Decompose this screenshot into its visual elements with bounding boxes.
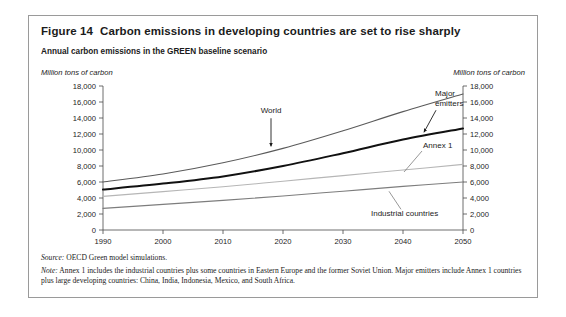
svg-text:6,000: 6,000 <box>470 178 489 187</box>
y-axis-right: 02,0004,0006,0008,00010,00012,00014,0001… <box>463 82 493 235</box>
svg-text:Industrial countries: Industrial countries <box>371 209 438 218</box>
svg-text:10,000: 10,000 <box>470 146 493 155</box>
svg-text:2050: 2050 <box>455 237 472 246</box>
x-axis: 1990200020102020203020402050 <box>95 230 472 246</box>
figure-title: Figure 14Carbon emissions in developing … <box>41 25 460 37</box>
y-axis-left: 02,0004,0006,0008,00010,00012,00014,0001… <box>73 82 103 235</box>
svg-text:1990: 1990 <box>95 237 112 246</box>
y-axis-unit-left: Million tons of carbon <box>41 68 113 77</box>
svg-text:12,000: 12,000 <box>73 130 96 139</box>
svg-text:16,000: 16,000 <box>73 98 96 107</box>
svg-text:2,000: 2,000 <box>77 210 96 219</box>
svg-text:18,000: 18,000 <box>470 82 493 91</box>
definition-note: Note: Annex 1 includes the industrial co… <box>41 266 527 286</box>
svg-text:14,000: 14,000 <box>470 114 493 123</box>
series-lines <box>103 94 463 208</box>
svg-text:8,000: 8,000 <box>77 162 96 171</box>
svg-text:0: 0 <box>92 226 96 235</box>
chart-plot-area: 02,0004,0006,0008,00010,00012,00014,0001… <box>29 78 537 258</box>
line-chart-svg: 02,0004,0006,0008,00010,00012,00014,0001… <box>29 78 537 258</box>
y-axis-unit-right: Million tons of carbon <box>453 68 525 77</box>
svg-text:14,000: 14,000 <box>73 114 96 123</box>
svg-text:12,000: 12,000 <box>470 130 493 139</box>
figure-subtitle: Annual carbon emissions in the GREEN bas… <box>41 47 267 56</box>
svg-text:2030: 2030 <box>335 237 352 246</box>
svg-text:Annex 1: Annex 1 <box>423 141 453 150</box>
source-text: OECD Green model simulations. <box>64 253 167 262</box>
svg-text:10,000: 10,000 <box>73 146 96 155</box>
svg-text:2010: 2010 <box>215 237 232 246</box>
svg-text:Major: Major <box>435 89 455 98</box>
figure-number: Figure 14 <box>41 25 93 37</box>
svg-text:World: World <box>261 106 282 115</box>
svg-text:2000: 2000 <box>155 237 172 246</box>
source-label: Source: <box>41 253 64 262</box>
figure-panel: Figure 14Carbon emissions in developing … <box>28 15 538 298</box>
svg-text:2,000: 2,000 <box>470 210 489 219</box>
note-label: Note: <box>41 266 58 275</box>
svg-text:2040: 2040 <box>395 237 412 246</box>
series-annotations: WorldMajoremittersAnnex 1Industrial coun… <box>261 89 464 218</box>
svg-text:6,000: 6,000 <box>77 178 96 187</box>
svg-text:16,000: 16,000 <box>470 98 493 107</box>
svg-text:0: 0 <box>470 226 474 235</box>
svg-text:2020: 2020 <box>275 237 292 246</box>
svg-text:18,000: 18,000 <box>73 82 96 91</box>
svg-text:4,000: 4,000 <box>470 194 489 203</box>
figure-title-text: Carbon emissions in developing countries… <box>100 25 460 37</box>
figure-notes: Source: OECD Green model simulations. No… <box>41 253 527 289</box>
source-note: Source: OECD Green model simulations. <box>41 253 527 263</box>
svg-text:8,000: 8,000 <box>470 162 489 171</box>
svg-text:4,000: 4,000 <box>77 194 96 203</box>
note-text: Annex 1 includes the industrial countrie… <box>41 266 521 285</box>
svg-text:emitters: emitters <box>435 99 463 108</box>
